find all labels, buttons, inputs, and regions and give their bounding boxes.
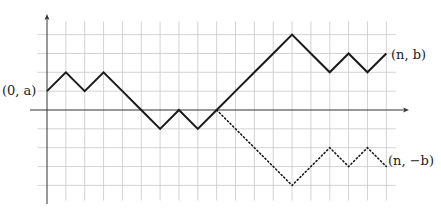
reflected-end-point-label: (n, −b) bbox=[388, 154, 434, 167]
start-point-label: (0, a) bbox=[2, 84, 36, 97]
axes bbox=[30, 14, 409, 204]
end-point-label: (n, b) bbox=[391, 48, 426, 61]
lattice-grid-plot bbox=[0, 0, 441, 212]
reflection-diagram: (0, a) (n, b) (n, −b) bbox=[0, 0, 441, 212]
